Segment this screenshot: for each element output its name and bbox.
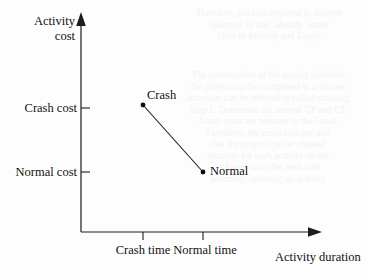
data-point-crash [141,103,146,108]
data-point-label-normal: Normal [210,164,248,178]
figure-page: Therefore, the cost required to achieve … [0,0,368,278]
data-point-label-crash: Crash [147,88,176,102]
y-tick-label-crash-cost: Crash cost [11,101,77,115]
crash-normal-connector-line [143,105,203,172]
y-axis-arrowhead [76,12,86,26]
x-axis-title: Activity duration [275,250,361,264]
y-axis-title: Activitycost [18,14,75,43]
x-tick-label-normal-time: Normal time [170,243,240,257]
y-axis-title-line1: Activity [34,14,75,28]
y-axis-title-line2: cost [55,29,75,43]
x-tick-label-crash-time: Crash time [111,243,175,257]
x-axis-arrowhead [308,227,322,236]
y-tick-label-normal-cost: Normal cost [5,165,77,179]
data-point-normal [201,170,206,175]
